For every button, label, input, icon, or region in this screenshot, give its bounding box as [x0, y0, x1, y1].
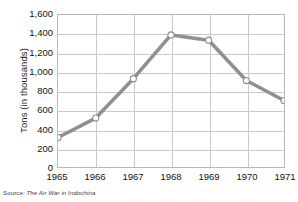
- y-axis-tick-label: 1,600: [12, 9, 53, 19]
- data-point-marker: [206, 37, 212, 43]
- y-axis-tick-labels: 02004006008001,0001,2001,4001,600: [12, 14, 53, 168]
- y-axis-tick-label: 1,000: [12, 67, 53, 77]
- source-note: Source: The Air War in Indochina: [3, 189, 95, 196]
- data-point-marker: [58, 134, 61, 140]
- y-axis-tick-label: 1,200: [12, 48, 53, 58]
- x-axis-tick-label: 1971: [261, 171, 298, 182]
- y-axis-tick-label: 200: [12, 144, 53, 154]
- data-point-markers: [58, 15, 284, 167]
- data-point-marker: [281, 97, 284, 103]
- x-axis-tick-labels: 1965196619671968196919701971: [57, 171, 285, 185]
- source-title: The Air War in Indochina: [26, 189, 95, 196]
- data-point-marker: [93, 115, 99, 121]
- plot-area: [57, 14, 285, 168]
- data-point-marker: [243, 77, 249, 83]
- y-axis-tick-label: 400: [12, 125, 53, 135]
- data-point-marker: [130, 76, 136, 82]
- source-label: Source:: [3, 189, 26, 196]
- y-axis-tick-label: 1,400: [12, 29, 53, 39]
- line-chart-figure: Tons (in thousands) 02004006008001,0001,…: [0, 0, 298, 202]
- data-point-marker: [168, 32, 174, 38]
- y-axis-tick-label: 800: [12, 86, 53, 96]
- y-axis-tick-label: 600: [12, 106, 53, 116]
